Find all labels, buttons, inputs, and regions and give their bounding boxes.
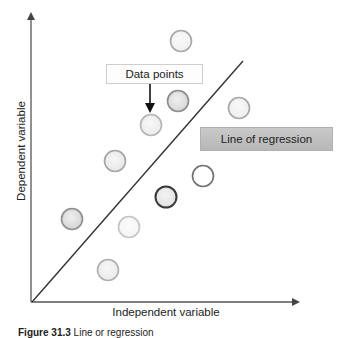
data-point-highlight — [157, 188, 175, 206]
data-point-highlight — [106, 152, 124, 170]
data-points-callout-label: Data points — [125, 68, 183, 80]
line-of-regression-callout: Line of regression — [200, 127, 333, 151]
figure-caption: Figure 31.3 Line or regression — [18, 327, 154, 338]
data-point-highlight — [169, 92, 187, 110]
data-point-highlight — [142, 116, 160, 134]
figure-number: Figure 31.3 — [18, 327, 71, 338]
x-axis-label: Independent variable — [112, 306, 219, 318]
data-point-highlight — [99, 261, 117, 279]
y-axis-label: Dependent variable — [15, 101, 27, 201]
data-point-highlight — [63, 210, 81, 228]
data-points-callout: Data points — [106, 64, 203, 84]
data-point-highlight — [230, 99, 248, 117]
line-of-regression-callout-label: Line of regression — [221, 133, 312, 145]
data-point-highlight — [194, 167, 212, 185]
data-point-highlight — [120, 218, 138, 236]
data-point-highlight — [172, 32, 190, 50]
figure-caption-text: Line or regression — [74, 327, 154, 338]
